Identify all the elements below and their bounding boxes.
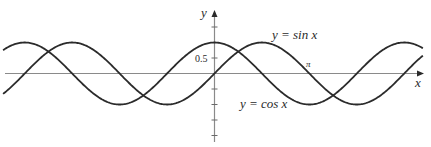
cos-curve-label: y = cos x [238, 96, 288, 111]
y-axis-arrow-icon [212, 10, 218, 17]
sine-cosine-chart: y x 0.5 π y = sin x y = cos x [0, 0, 431, 147]
y-axis-label: y [199, 5, 207, 20]
tick-label-half: 0.5 [195, 53, 208, 64]
sin-curve-label: y = sin x [270, 27, 317, 42]
pi-tick-label: π [306, 59, 311, 69]
x-axis-label: x [414, 75, 421, 90]
